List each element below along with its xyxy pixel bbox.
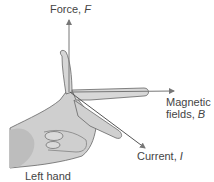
thumb <box>60 50 72 94</box>
left-hand-label: Left hand <box>25 170 71 182</box>
index-finger <box>72 88 149 100</box>
current-label: Current, I <box>137 150 183 162</box>
magnetic-field-label: Magnetic fields, B <box>166 96 211 120</box>
force-label: Force, F <box>50 3 91 15</box>
